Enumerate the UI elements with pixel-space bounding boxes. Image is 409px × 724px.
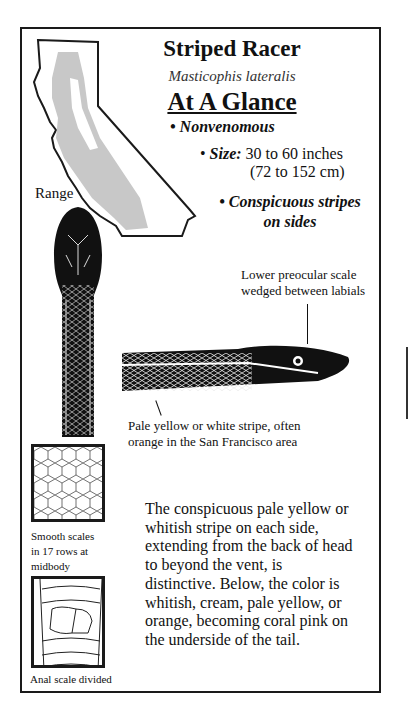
bullet-stripes: • Conspicuous stripes on sides (215, 192, 365, 232)
bullet-icon: • (219, 193, 225, 210)
caption-smooth-scales: Smooth scales in 17 rows at midbody (31, 529, 111, 574)
page-title: Striped Racer (122, 36, 342, 62)
description-paragraph: The conspicuous pale yellow or whitish s… (145, 500, 355, 650)
page-edge-mark (406, 347, 408, 419)
section-heading: At A Glance (122, 88, 342, 116)
bullet-icon: • (170, 118, 176, 135)
caption-stripe: Pale yellow or white stripe, often orang… (128, 418, 328, 450)
range-label: Range (35, 185, 73, 202)
snake-dorsal-illustration (48, 205, 108, 440)
caption-anal-scale: Anal scale divided (30, 673, 112, 685)
scientific-name: Masticophis lateralis (122, 68, 342, 85)
preocular-pointer-line (307, 304, 308, 344)
bullet-icon: • (200, 145, 206, 162)
bullet-size: • Size: 30 to 60 inches (72 to 152 cm) (200, 145, 345, 181)
anal-scale-illustration (31, 576, 105, 668)
snake-head-side-illustration (118, 343, 354, 403)
caption-preocular: Lower preocular scale wedged between lab… (241, 267, 381, 299)
smooth-scales-illustration (31, 444, 105, 522)
bullet-nonvenomous: • Nonvenomous (170, 118, 275, 136)
